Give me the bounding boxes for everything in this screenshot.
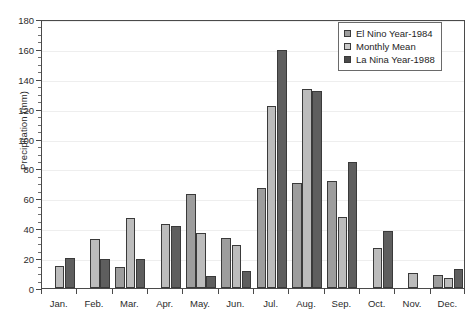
bar [136,259,146,288]
bar [408,273,418,288]
y-axis-label: 40 [23,224,34,235]
x-axis-tick [112,289,113,294]
x-axis-label: Feb. [84,298,103,309]
bar [100,259,110,288]
y-axis: 020406080100120140160180 [0,20,41,289]
x-axis: Jan.Feb.Mar.Apr.May.Jun.Jul.Aug.Sep.Oct.… [41,289,465,324]
x-axis-tick [182,289,183,294]
x-axis-tick [430,289,431,294]
x-axis-label: Oct. [368,298,385,309]
y-axis-label: 140 [18,74,34,85]
bar [126,218,136,288]
bar [383,231,393,288]
x-axis-label: May. [190,298,210,309]
legend-item-la-nina: La Nina Year-1988 [344,53,435,66]
x-axis-label: Mar. [120,298,138,309]
bar [221,238,231,288]
x-axis-label: Nov. [403,298,422,309]
bar [444,278,454,288]
legend-item-label: La Nina Year-1988 [356,54,435,65]
precipitation-bar-chart: Precipitation (mm) 020406080100120140160… [0,0,473,324]
x-axis-tick [394,289,395,294]
bar [90,239,100,288]
x-axis-tick [76,289,77,294]
x-axis-tick [464,289,465,294]
bar [186,194,196,288]
bar [206,276,216,288]
bar [454,269,464,288]
bar [373,248,383,288]
bar [302,89,312,288]
y-axis-label: 20 [23,254,34,265]
bar [65,258,75,288]
bar [242,271,252,288]
y-axis-label: 80 [23,164,34,175]
bar [232,245,242,288]
legend-item-label: El Nino Year-1984 [356,28,433,39]
bar [348,162,358,288]
y-axis-label: 120 [18,104,34,115]
x-axis-label: Jun. [226,298,244,309]
x-axis-label: Aug. [296,298,316,309]
bar [327,181,337,288]
legend-swatch-icon [344,30,351,37]
legend-item-el-nino: El Nino Year-1984 [344,27,435,40]
x-axis-tick [359,289,360,294]
bar [338,217,348,288]
bar [115,267,125,288]
x-axis-tick [218,289,219,294]
x-axis-label: Dec. [438,298,458,309]
legend-item-label: Monthly Mean [356,41,416,52]
x-axis-label: Jul. [263,298,278,309]
y-axis-label: 0 [29,284,34,295]
x-axis-label: Sep. [332,298,352,309]
bar [267,106,277,288]
legend-item-monthly-mean: Monthly Mean [344,40,435,53]
y-axis-label: 160 [18,44,34,55]
x-axis-tick [288,289,289,294]
chart-legend: El Nino Year-1984 Monthly Mean La Nina Y… [338,22,442,71]
x-axis-tick [324,289,325,294]
bar [257,188,267,288]
bar [196,233,206,288]
bar [55,266,65,288]
x-axis-tick [41,289,42,294]
y-axis-label: 100 [18,134,34,145]
x-axis-tick [147,289,148,294]
bar [292,183,302,288]
y-axis-label: 180 [18,15,34,26]
x-axis-tick [253,289,254,294]
legend-swatch-icon [344,43,351,50]
y-axis-label: 60 [23,194,34,205]
bar [161,224,171,288]
bar [433,275,443,288]
x-axis-label: Jan. [50,298,68,309]
x-axis-label: Apr. [156,298,173,309]
bar [171,226,181,288]
legend-swatch-icon [344,56,351,63]
bar [312,91,322,288]
bar [277,50,287,288]
